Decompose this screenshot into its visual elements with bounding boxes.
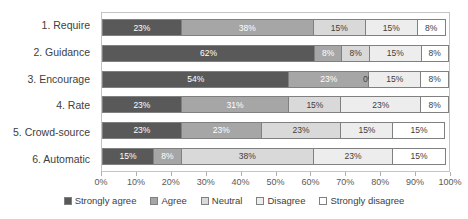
x-axis-tick [171, 172, 172, 176]
category-label: 4. Rate [0, 92, 95, 119]
bar-segment: 23% [182, 122, 262, 139]
bar-segment-value: 38% [239, 24, 256, 33]
bar-segment: 15% [393, 148, 445, 165]
x-axis-tick [206, 172, 207, 176]
bar-segment: 15% [314, 19, 366, 36]
bar-segment: 15% [369, 71, 421, 88]
x-axis-tick-labels: 0%10%20%30%40%50%60%70%80%90%100% [101, 177, 450, 191]
bar-segment: 38% [182, 19, 314, 36]
legend-item[interactable]: Disagree [256, 195, 305, 206]
bar-segment: 8% [422, 45, 449, 62]
x-axis-tick [101, 172, 102, 176]
bar-segment-value: 15% [358, 126, 375, 135]
bar-segment-value: 15% [410, 152, 427, 161]
bar-segment-value: 23% [133, 24, 150, 33]
x-axis-tick [380, 172, 381, 176]
legend-swatch-icon [256, 197, 264, 205]
bar-segment: 23% [262, 122, 342, 139]
bar-segment: 23% [289, 71, 369, 88]
x-axis-tick-label: 30% [197, 177, 215, 187]
bar-segment-value: 8% [161, 152, 173, 161]
legend-swatch-icon [319, 197, 327, 205]
bar-segment: 15% [102, 148, 154, 165]
x-axis-tick-label: 0% [94, 177, 107, 187]
x-axis-tick [345, 172, 346, 176]
bar-segment: 23% [314, 148, 394, 165]
category-label: 5. Crowd-source [0, 119, 95, 146]
stacked-bar-chart: 1. Require2. Guidance3. Encourage4. Rate… [0, 0, 468, 219]
bar-segment-value: 23% [133, 126, 150, 135]
bar-row: 23%38%15%15%8% [102, 19, 449, 36]
legend-label: Neutral [212, 195, 243, 206]
bar-row: 23%23%23%15%15% [102, 122, 449, 139]
bar-segment: 15% [366, 19, 418, 36]
bar-segment-value: 8% [322, 49, 334, 58]
bar-segment: 23% [102, 122, 182, 139]
bar-segment: 23% [341, 96, 421, 113]
legend-label: Agree [161, 195, 186, 206]
bar-segment-value: 23% [320, 75, 337, 84]
legend-item[interactable]: Agree [150, 195, 186, 206]
bar-segment-value: 15% [386, 75, 403, 84]
bar-segment-value: 15% [383, 24, 400, 33]
x-axis-tick-label: 10% [127, 177, 145, 187]
legend-item[interactable]: Strongly agree [64, 195, 137, 206]
x-axis-tick-label: 50% [266, 177, 284, 187]
bar-segment: 8% [342, 45, 369, 62]
x-axis-tick [276, 172, 277, 176]
bar-segment-value: 8% [428, 101, 440, 110]
x-axis-tick [415, 172, 416, 176]
bar-segment-value: 8% [428, 75, 440, 84]
bar-segment-value: 23% [133, 101, 150, 110]
legend-label: Disagree [267, 195, 305, 206]
bar-segment: 31% [182, 96, 290, 113]
bar-segment: 38% [182, 148, 314, 165]
legend-item[interactable]: Neutral [201, 195, 243, 206]
bar-segment: 15% [393, 122, 445, 139]
bar-segment: 8% [421, 96, 449, 113]
bar-segment: 8% [154, 148, 182, 165]
bar-series-container: 23%38%15%15%8%62%8%8%15%8%54%23%0%15%8%2… [102, 13, 449, 171]
x-axis-tick-label: 60% [301, 177, 319, 187]
legend-swatch-icon [201, 197, 209, 205]
bar-segment-value: 8% [429, 49, 441, 58]
bar-segment: 54% [102, 71, 289, 88]
bar-segment-value: 8% [425, 24, 437, 33]
bar-segment: 23% [102, 19, 182, 36]
bar-segment-value: 23% [372, 101, 389, 110]
bar-segment: 8% [418, 19, 446, 36]
x-axis-tick [310, 172, 311, 176]
bar-row: 23%31%15%23%8% [102, 96, 449, 113]
x-axis-tick-label: 70% [336, 177, 354, 187]
bar-segment-value: 8% [350, 49, 362, 58]
category-label: 2. Guidance [0, 39, 95, 66]
bar-segment-value: 23% [292, 126, 309, 135]
plot-area: 23%38%15%15%8%62%8%8%15%8%54%23%0%15%8%2… [101, 12, 450, 172]
x-axis-tick-label: 90% [406, 177, 424, 187]
x-axis-tick-label: 40% [232, 177, 250, 187]
bar-segment: 23% [102, 96, 182, 113]
x-axis-tick-label: 20% [162, 177, 180, 187]
x-axis-tick [136, 172, 137, 176]
bar-segment-value: 15% [331, 24, 348, 33]
bar-segment-value: 54% [187, 75, 204, 84]
legend-label: Strongly agree [75, 195, 137, 206]
legend-label: Strongly disagree [330, 195, 404, 206]
bar-segment-value: 31% [227, 101, 244, 110]
legend-item[interactable]: Strongly disagree [319, 195, 404, 206]
x-axis-tick [450, 172, 451, 176]
chart-legend: Strongly agreeAgreeNeutralDisagreeStrong… [0, 195, 468, 206]
bar-segment: 15% [289, 96, 341, 113]
bar-segment-value: 38% [239, 152, 256, 161]
bar-row: 62%8%8%15%8% [102, 45, 449, 62]
bar-segment-value: 15% [120, 152, 137, 161]
legend-swatch-icon [150, 197, 158, 205]
bar-segment: 8% [421, 71, 449, 88]
bar-segment-value: 15% [410, 126, 427, 135]
x-axis-tick-label: 100% [438, 177, 461, 187]
bar-segment: 15% [370, 45, 422, 62]
category-axis-labels: 1. Require2. Guidance3. Encourage4. Rate… [0, 12, 95, 172]
x-axis-tick-label: 80% [371, 177, 389, 187]
bar-row: 15%8%38%23%15% [102, 148, 449, 165]
legend-swatch-icon [64, 197, 72, 205]
